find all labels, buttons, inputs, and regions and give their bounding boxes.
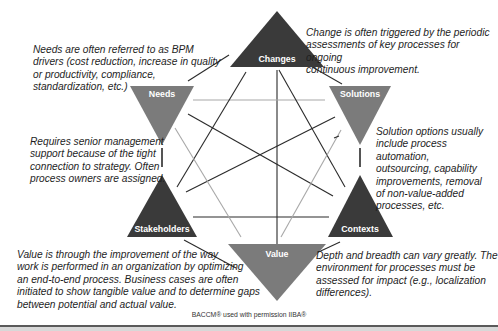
note-line: initiated to show tangible value and to … bbox=[17, 286, 260, 298]
note-line: connection to strategy. Often bbox=[30, 161, 165, 173]
bottom-shadow bbox=[0, 327, 498, 331]
note-line: Solution options usually bbox=[376, 126, 498, 138]
note-line: Needs are often referred to as BPM bbox=[33, 44, 220, 56]
note-line: Requires senior management bbox=[30, 136, 165, 148]
note-line: continuous improvement. bbox=[306, 64, 498, 76]
note-line: outsourcing, capability bbox=[376, 163, 498, 175]
note-changes: Change is often triggered by the periodi… bbox=[306, 27, 498, 77]
note-solutions: Solution options usually include process… bbox=[376, 126, 498, 213]
note-line: or productivity, compliance, bbox=[33, 69, 220, 81]
note-line: improvements, removal bbox=[376, 176, 498, 188]
note-line: work is performed in an organization by … bbox=[17, 261, 260, 273]
label-value: Value bbox=[266, 249, 289, 259]
note-line: drivers (cost reduction, increase in qua… bbox=[33, 56, 220, 68]
note-line: assessments of key processes for ongoing bbox=[306, 39, 498, 64]
note-line: Value is through the improvement of the … bbox=[17, 249, 260, 261]
note-line: assessed for impact (e.g., localization bbox=[316, 275, 498, 287]
note-line: Depth and breadth can vary greatly. The bbox=[316, 250, 498, 262]
note-line: standardization, etc.) bbox=[33, 81, 220, 93]
credit-line: BACCM® used with permission IIBA® bbox=[0, 311, 498, 318]
note-line: Change is often triggered by the periodi… bbox=[306, 27, 498, 39]
note-contexts: Depth and breadth can vary greatly. The … bbox=[316, 250, 498, 300]
label-stakeholders: Stakeholders bbox=[134, 224, 189, 234]
label-solutions: Solutions bbox=[340, 89, 380, 99]
note-line: environment for processes must be bbox=[316, 262, 498, 274]
note-line: support because of the tight bbox=[30, 148, 165, 160]
note-line: processes, etc. bbox=[376, 200, 498, 212]
note-stakeholders: Requires senior management support becau… bbox=[30, 136, 165, 186]
note-line: include process automation, bbox=[376, 138, 498, 163]
note-line: between potential and actual value. bbox=[17, 299, 260, 311]
note-line: an end-to-end process. Business cases ar… bbox=[17, 274, 260, 286]
line-solutions-value bbox=[281, 130, 341, 237]
note-line: process owners are assigned. bbox=[30, 173, 165, 185]
note-value: Value is through the improvement of the … bbox=[17, 249, 260, 311]
note-line: differences). bbox=[316, 287, 498, 299]
note-needs: Needs are often referred to as BPM drive… bbox=[33, 44, 220, 94]
label-contexts: Contexts bbox=[341, 224, 379, 234]
label-changes: Changes bbox=[258, 54, 295, 64]
note-line: of non-value-added bbox=[376, 188, 498, 200]
